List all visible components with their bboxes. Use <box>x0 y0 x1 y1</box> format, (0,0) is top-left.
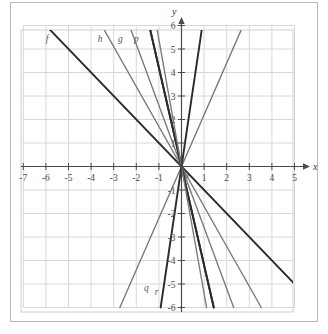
y-tick-label: -4 <box>168 256 176 266</box>
x-tick-label: -7 <box>19 173 27 183</box>
x-tick-label: 3 <box>247 173 252 183</box>
coordinate-plane: -7-6-5-4-3-2-112345654321-1-2-3-4-5-6 fh… <box>0 0 328 334</box>
x-tick-label: -1 <box>155 173 163 183</box>
x-axis-arrow <box>303 163 310 169</box>
y-axis-arrow <box>178 17 184 24</box>
y-tick-label: 6 <box>171 21 176 31</box>
x-axis-label: x <box>312 161 318 172</box>
x-tick-label: -5 <box>65 173 73 183</box>
y-tick-label: 3 <box>171 92 176 102</box>
curve-label-f: f <box>46 34 50 44</box>
x-tick-label: 2 <box>224 173 229 183</box>
y-axis-label: y <box>171 6 177 17</box>
origin-label: 0 <box>184 170 189 180</box>
y-tick-label: -2 <box>168 209 176 219</box>
curve-label-p: p <box>133 34 139 44</box>
y-tick-label: 5 <box>171 45 176 55</box>
y-tick-label: -1 <box>168 186 176 196</box>
curve-label-h: h <box>98 34 103 44</box>
graph-svg: -7-6-5-4-3-2-112345654321-1-2-3-4-5-6 fh… <box>0 0 328 334</box>
curve-label-r: r <box>155 287 159 297</box>
y-tick-label: -5 <box>168 280 176 290</box>
y-tick-label: 2 <box>171 115 176 125</box>
bottom-margin <box>0 324 328 334</box>
x-tick-label: 5 <box>292 173 297 183</box>
x-tick-label: 4 <box>270 173 275 183</box>
y-tick-label: -3 <box>168 233 176 243</box>
x-tick-label: -2 <box>132 173 140 183</box>
x-tick-label: -6 <box>42 173 50 183</box>
axes <box>21 17 310 312</box>
y-tick-label: 4 <box>171 68 176 78</box>
curve-label-g: g <box>118 34 123 44</box>
x-tick-label: -4 <box>87 173 95 183</box>
y-tick-label: -6 <box>168 303 176 313</box>
curve-label-q: q <box>144 283 149 293</box>
x-tick-label: -3 <box>110 173 118 183</box>
y-tick-label: 1 <box>171 139 176 149</box>
x-tick-label: 1 <box>202 173 207 183</box>
